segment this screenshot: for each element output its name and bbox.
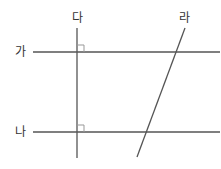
right-angle-mark-top (77, 45, 84, 52)
diagram-drawing (0, 0, 221, 169)
right-angle-mark-bottom (77, 125, 84, 132)
line-ra (137, 28, 185, 157)
label-ga: 가 (15, 46, 26, 58)
label-da: 다 (72, 12, 83, 24)
label-na: 나 (15, 126, 26, 138)
parallel-lines-diagram: 다 라 가 나 (0, 0, 221, 169)
label-ra: 라 (179, 12, 190, 24)
